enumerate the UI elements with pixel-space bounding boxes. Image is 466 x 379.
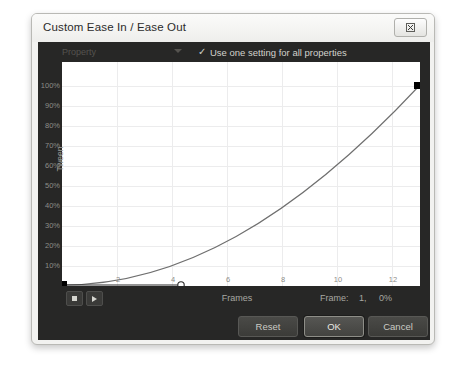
y-tick-100: 100% bbox=[34, 81, 60, 90]
chevron-down-icon[interactable] bbox=[174, 49, 182, 53]
close-button[interactable] bbox=[394, 18, 427, 37]
y-tick-70: 70% bbox=[34, 141, 60, 150]
y-tick-20: 20% bbox=[34, 241, 60, 250]
toolbar: Property ✓ Use one setting for all prope… bbox=[38, 42, 430, 62]
dialog-body: Property ✓ Use one setting for all prope… bbox=[38, 42, 430, 340]
y-tick-10: 10% bbox=[34, 261, 60, 270]
frames-axis-label: Frames bbox=[182, 293, 292, 303]
close-icon bbox=[406, 23, 415, 32]
x-tick-6: 6 bbox=[220, 275, 236, 284]
property-dropdown[interactable]: Property bbox=[62, 45, 184, 59]
stop-icon bbox=[71, 295, 78, 302]
check-icon: ✓ bbox=[198, 47, 206, 57]
frame-status: Frame: 1, 0% bbox=[320, 293, 392, 303]
x-tick-4: 4 bbox=[165, 275, 181, 284]
y-tick-60: 60% bbox=[34, 161, 60, 170]
x-tick-10: 10 bbox=[330, 275, 346, 284]
playback-bar: Frames Frame: 1, 0% bbox=[62, 290, 420, 310]
ease-curve-plot[interactable]: Tween 100% 90% 80% 70% 60% 50% 40% 30% 2… bbox=[62, 62, 420, 286]
ease-curve-graph bbox=[62, 62, 420, 286]
end-anchor-point[interactable] bbox=[414, 82, 420, 89]
start-anchor-point[interactable] bbox=[62, 281, 67, 286]
dialog-title: Custom Ease In / Ease Out bbox=[43, 21, 186, 33]
frame-status-label: Frame: bbox=[320, 293, 349, 303]
x-tick-8: 8 bbox=[275, 275, 291, 284]
cancel-button[interactable]: Cancel bbox=[368, 316, 428, 337]
ease-curve-path bbox=[63, 86, 419, 285]
stop-button[interactable] bbox=[66, 291, 83, 306]
y-tick-40: 40% bbox=[34, 201, 60, 210]
use-one-setting-checkbox[interactable]: ✓ Use one setting for all properties bbox=[198, 45, 347, 59]
dialog-footer: Reset OK Cancel bbox=[38, 316, 430, 340]
y-tick-30: 30% bbox=[34, 221, 60, 230]
frame-percent-value: 0% bbox=[379, 293, 392, 303]
reset-button[interactable]: Reset bbox=[238, 316, 298, 337]
dialog-titlebar: Custom Ease In / Ease Out bbox=[32, 14, 434, 42]
x-tick-12: 12 bbox=[385, 275, 401, 284]
grid-lines bbox=[62, 62, 420, 286]
y-tick-80: 80% bbox=[34, 121, 60, 130]
play-button[interactable] bbox=[86, 291, 103, 306]
ok-button[interactable]: OK bbox=[304, 316, 364, 337]
x-tick-2: 2 bbox=[110, 275, 126, 284]
y-tick-90: 90% bbox=[34, 101, 60, 110]
frame-number-value: 1, bbox=[359, 293, 367, 303]
y-tick-50: 50% bbox=[34, 181, 60, 190]
custom-ease-dialog: Custom Ease In / Ease Out Property ✓ Use… bbox=[31, 13, 435, 345]
use-one-setting-label: Use one setting for all properties bbox=[210, 47, 347, 58]
play-icon bbox=[91, 295, 98, 303]
